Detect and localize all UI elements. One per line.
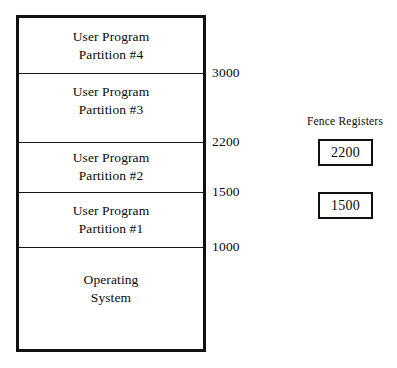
divider-line-2200 — [19, 142, 203, 143]
memory-map: User Program Partition #4 User Program P… — [16, 15, 206, 352]
memory-band-label: User Program Partition #1 — [73, 202, 150, 238]
memory-band-partition-1: User Program Partition #1 — [19, 192, 203, 247]
fence-register-box-lower: 1500 — [318, 192, 373, 219]
fence-registers-title: Fence Registers — [295, 116, 395, 128]
memory-band-operating-system: Operating System — [19, 247, 203, 352]
memory-band-label: User Program Partition #4 — [73, 28, 150, 64]
fence-register-value: 1500 — [331, 199, 360, 213]
divider-line-1000 — [19, 247, 203, 248]
memory-band-label: User Program Partition #3 — [73, 83, 150, 119]
divider-line-1500 — [19, 192, 203, 193]
address-label-1000: 1000 — [212, 240, 240, 254]
address-label-2200: 2200 — [212, 135, 240, 149]
memory-band-partition-3: User Program Partition #3 — [19, 73, 203, 142]
diagram-canvas: User Program Partition #4 User Program P… — [0, 0, 397, 368]
address-label-1500: 1500 — [212, 185, 240, 199]
memory-band-label: User Program Partition #2 — [73, 149, 150, 185]
memory-band-partition-2: User Program Partition #2 — [19, 142, 203, 192]
memory-band-partition-4: User Program Partition #4 — [19, 18, 203, 73]
address-label-3000: 3000 — [212, 66, 240, 80]
memory-band-label: Operating System — [84, 271, 139, 307]
fence-register-value: 2200 — [331, 146, 360, 160]
divider-line-3000 — [19, 73, 203, 74]
fence-register-box-upper: 2200 — [318, 139, 373, 166]
